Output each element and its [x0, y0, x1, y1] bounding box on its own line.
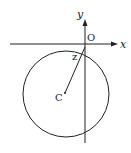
origin-label: O [87, 32, 95, 43]
x-axis-label: x [120, 38, 127, 51]
y-axis-label: y [76, 8, 84, 21]
center-label: C [55, 92, 63, 103]
circle [23, 51, 109, 137]
x-axis-arrow-icon [111, 42, 118, 47]
y-axis-arrow-icon [83, 19, 88, 26]
center-point [64, 92, 66, 94]
complex-plane-diagram: y x O z C [0, 0, 131, 153]
point-z-label: z [72, 51, 77, 62]
